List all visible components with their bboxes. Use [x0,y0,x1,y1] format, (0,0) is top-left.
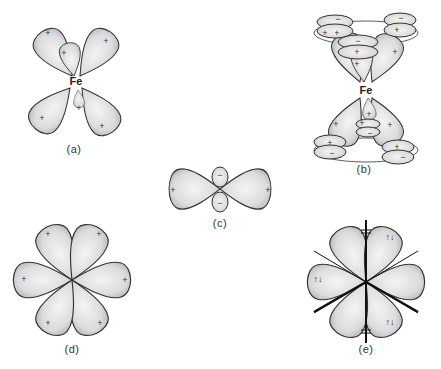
panel-label-e: (e) [359,343,374,355]
sign-minus: − [355,37,360,46]
sign-minus: − [398,14,403,23]
sign-minus: − [367,129,372,138]
sign-plus: + [97,319,102,328]
sign-plus: + [76,104,81,113]
sign-plus: + [354,48,359,57]
sign-plus: + [122,276,127,285]
sign-plus: + [45,29,50,38]
sign-plus: + [21,275,26,284]
panel-e [307,220,424,343]
sign-plus: + [334,29,339,38]
sign-plus: + [170,186,175,195]
electron-pair: ↑↓ [386,233,395,242]
sign-plus: + [96,230,101,239]
sign-plus: + [359,119,364,128]
sign-plus: + [322,29,327,38]
sign-plus: + [103,37,108,46]
sign-minus: − [217,199,222,208]
panel-label-a: (a) [67,143,82,155]
sign-plus: + [61,49,66,58]
electron-pair: ↑↓ [314,275,323,284]
fe-label-b: Fe [360,84,373,96]
fe-label-a: Fe [70,75,83,87]
panel-label-c: (c) [213,217,227,229]
sign-plus: + [45,230,50,239]
sign-plus: + [45,319,50,328]
sign-plus: + [394,26,399,35]
sign-plus: + [392,48,397,57]
sign-minus: − [217,171,222,180]
panel-d [13,219,130,340]
sign-plus: + [99,122,104,131]
sign-minus: − [329,149,334,158]
sign-plus: + [394,143,399,152]
sign-minus: − [335,15,340,24]
panel-label-d: (d) [65,343,80,355]
sign-plus: + [387,121,392,130]
sign-plus: + [327,139,332,148]
sign-plus: + [354,60,359,69]
sign-plus: + [366,110,371,119]
sign-plus: + [265,186,270,195]
sign-plus: + [39,114,44,123]
panel-label-b: (b) [357,163,372,175]
sign-plus: + [333,120,338,129]
sign-minus: − [400,153,405,162]
electron-pair: ↑↓ [386,318,395,327]
